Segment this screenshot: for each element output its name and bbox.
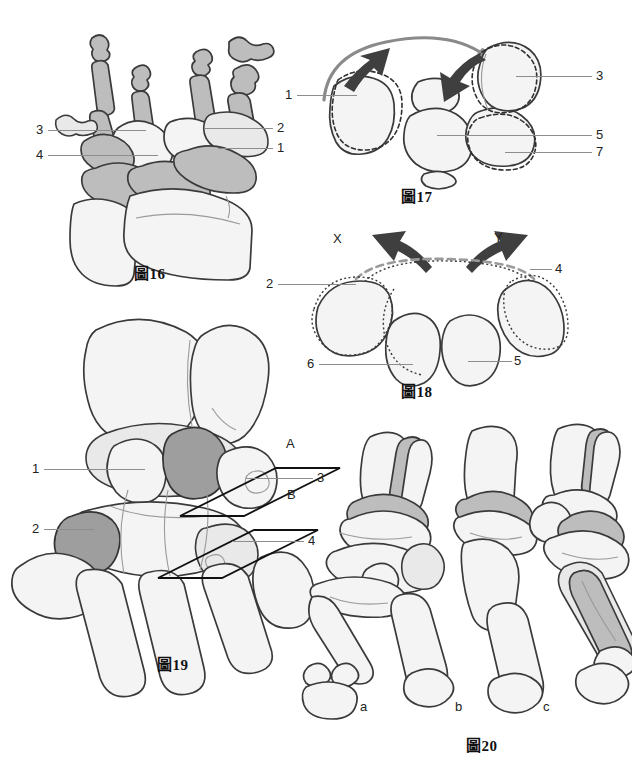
fig20-label-b: b: [455, 699, 462, 714]
fig18-arrow-x: [372, 231, 432, 273]
fig18-leader-4: [530, 269, 552, 270]
fig19-plane-label-a: A: [286, 436, 295, 451]
fig19-carpal-row: [86, 423, 277, 508]
figure-18: X Y 2 4 6 5: [300, 225, 600, 385]
fig18-leader-2: [278, 284, 356, 285]
fig18-bone-hamate: [442, 315, 501, 386]
fig20-view-b: [454, 426, 544, 712]
fig18-label-y: Y: [494, 230, 503, 245]
figure-20: a b c: [300, 415, 632, 715]
fig18-label-4: 4: [555, 261, 562, 276]
fig17-leader-7: [505, 152, 592, 153]
fig17-label-3: 3: [596, 68, 603, 83]
figure-19-caption: 圖19: [157, 653, 189, 674]
fig19-plane-label-b: B: [287, 487, 296, 502]
fig20-label-a: a: [360, 699, 367, 714]
fig17-leader-3: [516, 76, 592, 77]
figure-16-artwork: [0, 0, 310, 290]
fig17-leader-1: [297, 95, 357, 96]
figure-17: 1 3 5 7: [300, 30, 600, 190]
figure-17-artwork: [300, 30, 600, 190]
fig19-leader-4: [232, 541, 304, 542]
figure-18-artwork: [300, 225, 600, 385]
fig20-view-a: [302, 432, 453, 719]
fig16-leader-1: [218, 148, 273, 149]
figure-18-caption: 圖18: [401, 380, 433, 401]
fig18-arch-dashed: [356, 259, 534, 279]
fig19-label-1: 1: [32, 461, 39, 476]
fig16-leader-2: [205, 128, 273, 129]
fig16-label-2: 2: [277, 120, 284, 135]
fig16-leader-3: [48, 130, 146, 131]
fig18-label-x: X: [333, 231, 342, 246]
fig19-leader-1: [44, 469, 145, 470]
figure-19-artwork: [0, 300, 340, 670]
fig17-label-7: 7: [596, 144, 603, 159]
fig18-bone-capitate: [386, 313, 441, 386]
figure-19: 1 2 A B 3 4: [0, 300, 340, 670]
fig18-leader-5: [468, 361, 512, 362]
fig16-label-3: 3: [36, 122, 43, 137]
fig16-leader-4: [48, 155, 158, 156]
fig20-label-c: c: [543, 699, 550, 714]
figure-20-caption: 圖20: [466, 734, 498, 755]
fig16-label-4: 4: [36, 147, 43, 162]
fig17-label-5: 5: [596, 127, 603, 142]
figure-17-caption: 圖17: [401, 185, 433, 206]
fig17-label-1: 1: [285, 87, 292, 102]
fig17-leader-5: [437, 135, 592, 136]
fig19-label-2: 2: [32, 521, 39, 536]
fig19-metacarpals: [12, 552, 314, 696]
fig17-bone-triquetrum: [466, 108, 536, 170]
fig18-bone-trapezoid: [498, 276, 568, 357]
fig17-bone-scaphoid: [330, 71, 402, 154]
fig16-label-1: 1: [277, 140, 284, 155]
fig18-label-2: 2: [266, 276, 273, 291]
fig19-leader-2: [44, 529, 94, 530]
figure-20-artwork: [300, 415, 632, 715]
fig20-view-c: [530, 424, 632, 703]
fig18-label-5: 5: [514, 353, 521, 368]
figure-16-caption: 圖16: [134, 262, 166, 283]
figure-16: 3 4 2 1: [0, 0, 310, 290]
fig17-bone-lunate-center: [404, 78, 472, 189]
